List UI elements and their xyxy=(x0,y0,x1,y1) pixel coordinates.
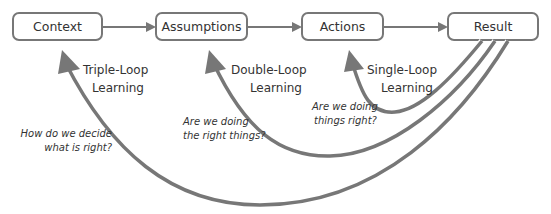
single-loop-question-line1: Are we doing xyxy=(311,101,378,112)
single-loop-label-line1: Single-Loop xyxy=(367,63,437,77)
single-loop-arrowhead xyxy=(344,50,364,72)
double-loop-label-line1: Double-Loop xyxy=(231,63,307,77)
triple-loop-question-line2: what is right? xyxy=(44,142,112,153)
double-loop-question-line1: Are we doing xyxy=(182,116,249,127)
node-result-label: Result xyxy=(474,19,513,34)
node-assumptions-label: Assumptions xyxy=(161,19,241,34)
double-loop-question-line2: the right things? xyxy=(183,130,266,141)
double-loop-arrowhead xyxy=(205,50,226,74)
triple-loop-label-line2: Learning xyxy=(92,81,144,95)
single-loop-question-line2: things right? xyxy=(314,115,378,126)
node-actions: Actions xyxy=(302,13,383,40)
double-loop-label-line2: Learning xyxy=(250,81,302,95)
triple-loop-question-line1: How do we decide xyxy=(21,128,112,139)
learning-loops-diagram: Context Assumptions Actions Result Tripl… xyxy=(0,0,551,214)
triple-loop-label-line1: Triple-Loop xyxy=(82,63,148,77)
single-loop-label-line2: Learning xyxy=(381,81,433,95)
node-assumptions: Assumptions xyxy=(156,13,247,40)
node-result: Result xyxy=(448,13,538,40)
triple-loop-arrowhead xyxy=(58,50,80,74)
node-actions-label: Actions xyxy=(320,19,366,34)
node-context-label: Context xyxy=(33,19,82,34)
node-context: Context xyxy=(13,13,102,40)
